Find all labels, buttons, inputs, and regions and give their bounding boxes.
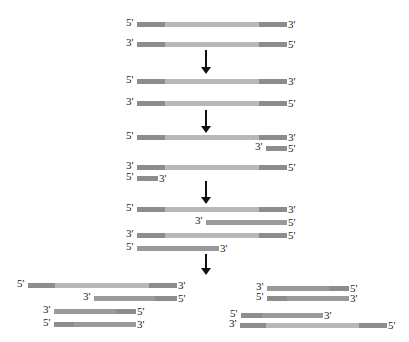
dna-strand (137, 207, 287, 212)
template-region (165, 22, 259, 27)
primer-region (259, 101, 287, 106)
dna-strand (137, 101, 287, 106)
template-region (165, 42, 259, 47)
dna-strand (267, 286, 349, 291)
strand-end-label-left: 3' (229, 318, 236, 329)
strand-end-label-left: 5' (256, 291, 263, 302)
strand-end-label-right: 3' (288, 19, 295, 30)
primer-region (259, 207, 287, 212)
strand-end-label-right: 3' (288, 204, 295, 215)
down-arrow-icon (205, 110, 207, 127)
strand-end-label-right: 5' (288, 143, 295, 154)
primer-region (116, 309, 136, 314)
strand-end-label-right: 5' (178, 293, 185, 304)
strand-end-label-right: 5' (288, 39, 295, 50)
primer-region (259, 233, 287, 238)
strand-end-label-left: 3' (83, 291, 90, 302)
dna-strand (266, 146, 287, 151)
strand-end-label-right: 3' (324, 310, 331, 321)
dna-strand (54, 322, 136, 327)
dna-strand (240, 323, 387, 328)
strand-end-label-right: 3' (350, 293, 357, 304)
strand-end-label-right: 5' (288, 230, 295, 241)
strand-end-label-right: 5' (288, 98, 295, 109)
primer-region (329, 286, 349, 291)
synthesized-region (94, 296, 155, 301)
primer-region (137, 207, 165, 212)
primer-region (359, 323, 387, 328)
dna-strand (137, 42, 287, 47)
synthesized-region (54, 309, 116, 314)
primer-region (259, 42, 287, 47)
strand-end-label-left: 3' (126, 228, 133, 239)
primer-region (155, 296, 177, 301)
strand-end-label-left: 3' (43, 304, 50, 315)
primer-region (137, 176, 158, 181)
primer-region (137, 42, 165, 47)
strand-end-label-right: 3' (159, 173, 166, 184)
synthesized-region (262, 313, 323, 318)
dna-strand (241, 313, 323, 318)
strand-end-label-left: 5' (126, 202, 133, 213)
template-region (165, 233, 259, 238)
synthesized-region (74, 322, 136, 327)
template-region (165, 135, 259, 140)
strand-end-label-right: 3' (137, 319, 144, 330)
strand-end-label-right: 5' (137, 306, 144, 317)
strand-end-label-left: 5' (43, 317, 50, 328)
dna-strand (137, 246, 219, 251)
template-region (165, 101, 259, 106)
down-arrow-icon (205, 181, 207, 198)
strand-end-label-left: 5' (126, 171, 133, 182)
strand-end-label-left: 5' (126, 130, 133, 141)
dna-strand (137, 79, 287, 84)
primer-region (259, 135, 287, 140)
strand-end-label-right: 5' (288, 217, 295, 228)
strand-end-label-left: 3' (126, 96, 133, 107)
dna-strand (137, 165, 287, 170)
strand-end-label-left: 5' (17, 278, 24, 289)
dna-strand (54, 309, 136, 314)
primer-region (259, 79, 287, 84)
template-region (55, 283, 149, 288)
synthesized-region (137, 246, 219, 251)
dna-strand (94, 296, 177, 301)
strand-end-label-left: 3' (195, 215, 202, 226)
synthesized-region (287, 296, 349, 301)
dna-strand (137, 135, 287, 140)
primer-region (259, 22, 287, 27)
dna-strand (206, 220, 287, 225)
dna-strand (28, 283, 177, 288)
strand-end-label-right: 3' (288, 76, 295, 87)
synthesized-region (267, 286, 329, 291)
primer-region (137, 22, 165, 27)
strand-end-label-right: 3' (220, 243, 227, 254)
primer-region (259, 165, 287, 170)
down-arrow-icon (205, 50, 207, 68)
dna-strand (267, 296, 349, 301)
pcr-diagram: 5'3'3'5'5'3'3'5'5'3'3'5'3'5'5'3'5'3'3'5'… (0, 0, 409, 342)
strand-end-label-left: 3' (255, 141, 262, 152)
primer-region (137, 233, 165, 238)
dna-strand (137, 176, 158, 181)
template-region (165, 79, 259, 84)
primer-region (240, 323, 266, 328)
primer-region (137, 165, 165, 170)
primer-region (137, 79, 165, 84)
dna-strand (137, 22, 287, 27)
dna-strand (137, 233, 287, 238)
strand-end-label-left: 5' (126, 17, 133, 28)
strand-end-label-right: 5' (388, 320, 395, 331)
primer-region (137, 135, 165, 140)
synthesized-region (206, 220, 287, 225)
primer-region (137, 101, 165, 106)
primer-region (54, 322, 74, 327)
primer-region (267, 296, 287, 301)
strand-end-label-left: 5' (126, 74, 133, 85)
strand-end-label-right: 5' (288, 162, 295, 173)
template-region (165, 165, 259, 170)
template-region (165, 207, 259, 212)
strand-end-label-left: 5' (126, 241, 133, 252)
strand-end-label-right: 3' (178, 280, 185, 291)
primer-region (149, 283, 177, 288)
